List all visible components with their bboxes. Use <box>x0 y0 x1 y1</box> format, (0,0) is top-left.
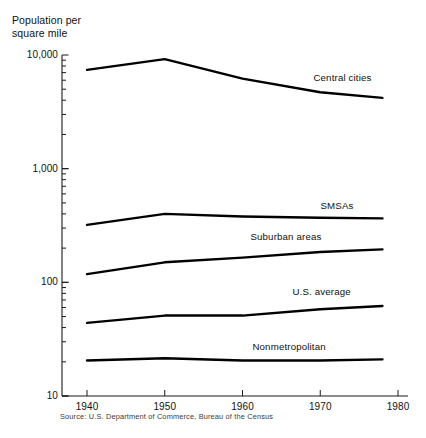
x-tick-label: 1980 <box>373 401 423 412</box>
population-density-chart: Population per square mile 10,0001,00010… <box>0 0 426 438</box>
series-label-u-s-average: U.S. average <box>292 286 350 297</box>
series-line <box>87 358 382 360</box>
series-line <box>87 306 382 323</box>
axes-group <box>62 55 408 396</box>
plot-area <box>0 0 426 438</box>
x-tick-label: 1950 <box>140 401 190 412</box>
y-tick-label: 10 <box>0 390 66 401</box>
series-label-suburban-areas: Suburban areas <box>250 231 321 242</box>
source-note: Source: U.S. Department of Commerce, Bur… <box>60 412 273 421</box>
x-tick-label: 1960 <box>218 401 268 412</box>
series-label-central-cities: Central cities <box>313 72 371 83</box>
y-tick-label: 100 <box>0 276 66 287</box>
x-tick-label: 1940 <box>62 401 112 412</box>
series-label-nonmetropolitan: Nonmetropolitan <box>252 341 325 352</box>
series-label-smsas: SMSAs <box>320 200 353 211</box>
series-line <box>87 214 382 225</box>
y-tick-label: 10,000 <box>0 49 66 60</box>
series-line <box>87 249 382 274</box>
x-tick-label: 1970 <box>295 401 345 412</box>
y-tick-label: 1,000 <box>0 163 66 174</box>
